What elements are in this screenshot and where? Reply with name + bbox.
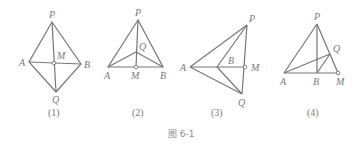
sublabel-3: (3) (211, 107, 223, 119)
point-M (52, 61, 56, 65)
segment-BQ (217, 67, 242, 94)
label-B: B (228, 55, 234, 66)
label-M: M (335, 76, 345, 87)
label-P: P (48, 9, 55, 20)
segment-PM (136, 20, 138, 67)
label-A: A (103, 70, 111, 81)
sublabel-4: (4) (307, 107, 319, 119)
label-A: A (279, 76, 287, 87)
triangle-PAB (108, 20, 163, 67)
label-Q: Q (139, 41, 147, 52)
figure-caption: 图 6-1 (168, 129, 195, 139)
label-P: P (248, 13, 255, 24)
segment-PA (190, 25, 247, 67)
figure-6-1: P A B M Q (1) P A B M Q (2) P A B M Q (3… (0, 0, 356, 147)
label-A: A (179, 62, 187, 73)
segment-PQ (52, 22, 56, 92)
label-B: B (313, 76, 319, 87)
figure-1: P A B M Q (1) (18, 9, 90, 119)
label-Q: Q (52, 94, 60, 105)
sublabel-1: (1) (48, 107, 60, 119)
point-M (243, 65, 247, 69)
segment-AQ (190, 67, 242, 94)
label-M: M (250, 62, 260, 73)
point-M (134, 65, 138, 69)
label-A: A (18, 57, 26, 68)
label-Q: Q (238, 97, 246, 108)
point-M (336, 71, 340, 75)
segment-PQ (242, 25, 247, 94)
label-M: M (130, 70, 140, 81)
label-B: B (84, 59, 90, 70)
figure-4: P A B M Q (4) (279, 11, 345, 119)
sublabel-2: (2) (132, 107, 144, 119)
figure-2: P A B M Q (2) (103, 7, 166, 119)
figure-3: P A B M Q (3) (179, 13, 260, 119)
label-B: B (160, 70, 166, 81)
label-P: P (313, 11, 320, 22)
label-M: M (56, 50, 66, 61)
label-P: P (134, 7, 141, 18)
label-Q: Q (333, 43, 341, 54)
